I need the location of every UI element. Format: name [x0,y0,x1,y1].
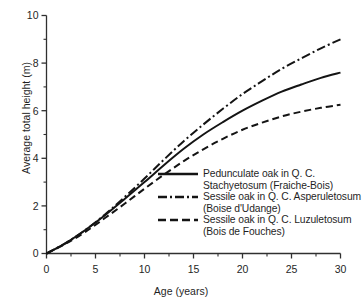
y-tick-label: 4 [33,152,39,164]
legend-label-pedunculate-stachyetosum: Pedunculate oak in Q. C. Stachyetosum (F… [203,168,333,191]
legend-swatch-solid-icon [158,171,198,184]
legend-label-sessile-luzuletosum: Sessile oak in Q. C. Luzuletosum (Bois d… [203,214,351,237]
y-tick-label: 0 [33,247,39,259]
legend-item-sessile-asperuletosum: Sessile oak in Q. C. Asperuletosum (Bois… [158,191,362,214]
y-tick-label: 10 [27,9,39,21]
x-axis-label: Age (years) [0,285,362,297]
y-tick-label: 8 [33,57,39,69]
chart-legend: Pedunculate oak in Q. C. Stachyetosum (F… [158,168,362,238]
x-tick-label: 10 [139,263,151,275]
chart-figure: 0246810051015202530 Average total height… [0,0,362,305]
x-tick-label: 30 [335,263,347,275]
legend-label-line2: (Boise d'Udange) [203,203,361,215]
legend-label-line2: (Bois de Fouches) [203,226,351,238]
x-tick-label: 0 [44,263,50,275]
legend-label-line1: Sessile oak in Q. C. Asperuletosum [203,191,361,203]
x-tick-label: 15 [188,263,200,275]
legend-label-sessile-asperuletosum: Sessile oak in Q. C. Asperuletosum (Bois… [203,191,361,214]
y-tick-label: 2 [33,200,39,212]
legend-swatch-dashdot-icon [158,194,198,207]
legend-label-line1: Sessile oak in Q. C. Luzuletosum [203,214,351,226]
x-tick-label: 5 [93,263,99,275]
legend-item-sessile-luzuletosum: Sessile oak in Q. C. Luzuletosum (Bois d… [158,214,362,237]
plot-area: 0246810051015202530 [0,0,362,305]
legend-swatch-dashed-icon [158,217,198,230]
y-axis-label: Average total height (m) [20,43,32,193]
legend-label-line2: Stachyetosum (Fraiche-Bois) [203,180,333,192]
x-tick-label: 25 [286,263,298,275]
y-tick-label: 6 [33,105,39,117]
x-tick-label: 20 [237,263,249,275]
legend-label-line1: Pedunculate oak in Q. C. [203,168,333,180]
legend-item-pedunculate-stachyetosum: Pedunculate oak in Q. C. Stachyetosum (F… [158,168,362,191]
